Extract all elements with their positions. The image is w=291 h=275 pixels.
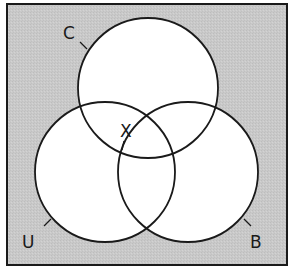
set-c-label: C <box>63 23 75 43</box>
set-u-label: U <box>22 232 34 252</box>
venn-diagram: C U B X <box>0 0 291 275</box>
set-b-label: B <box>250 232 262 252</box>
region-x-label: X <box>120 121 132 141</box>
